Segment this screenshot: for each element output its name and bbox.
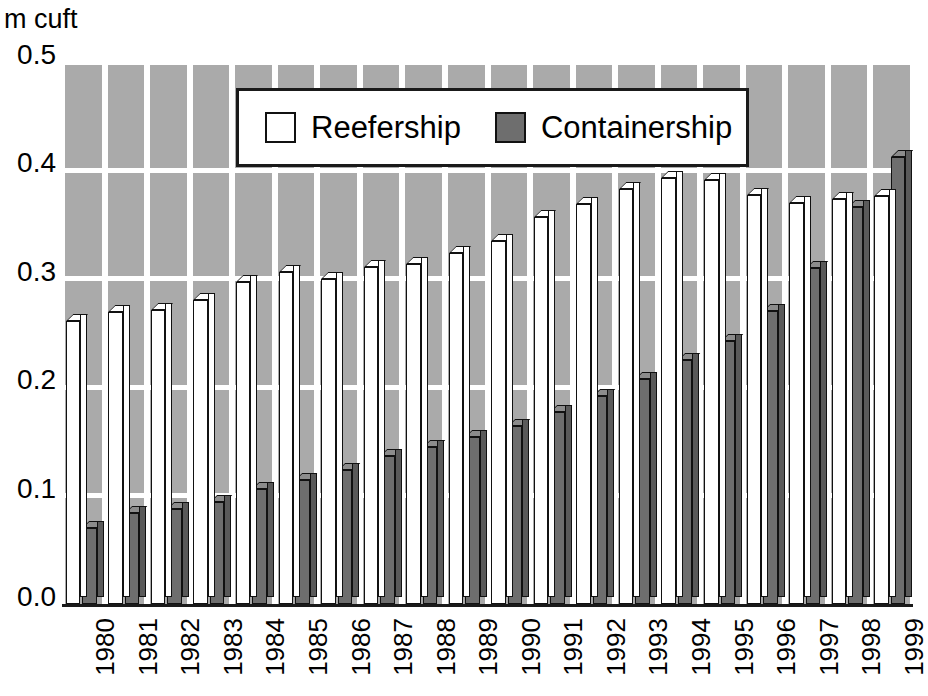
chart-legend: ReefershipContainership xyxy=(236,88,749,167)
bar-front-face xyxy=(151,310,166,604)
legend-entry[interactable]: Containership xyxy=(495,112,732,143)
bar-side-face xyxy=(421,257,428,597)
bar-reefership xyxy=(66,314,81,604)
bar-side-face xyxy=(139,506,146,597)
bar-side-face xyxy=(97,521,104,597)
bar-side-face xyxy=(650,372,657,597)
legend-entry[interactable]: Reefership xyxy=(265,112,461,143)
bar-reefership xyxy=(364,260,379,604)
x-axis-tick-label: 1999 xyxy=(901,618,927,676)
bar-reefership xyxy=(704,173,719,604)
x-axis-tick-label: 1993 xyxy=(645,618,671,676)
bar-front-face xyxy=(279,272,294,604)
legend-label: Containership xyxy=(541,112,732,143)
x-axis-tick-label: 1989 xyxy=(475,618,501,676)
x-axis-tick-label: 1996 xyxy=(773,618,799,676)
x-axis-tick-label: 1986 xyxy=(348,618,374,676)
bar-reefership xyxy=(491,234,506,604)
x-axis-tick-label: 1998 xyxy=(858,618,884,676)
y-axis-tick-label: 0.4 xyxy=(17,149,56,177)
bar-reefership xyxy=(151,303,166,604)
bar-side-face xyxy=(804,196,811,597)
x-axis-tick-label: 1994 xyxy=(688,618,714,676)
bar-front-face xyxy=(449,253,464,604)
bar-side-face xyxy=(761,188,768,597)
bar-side-face xyxy=(336,272,343,597)
bar-reefership xyxy=(661,171,676,604)
y-axis-tick-label: 0.5 xyxy=(17,41,56,69)
y-axis-tick-label: 0.2 xyxy=(17,366,56,394)
x-axis-tick-label: 1980 xyxy=(92,618,118,676)
x-axis-tick-label: 1987 xyxy=(390,618,416,676)
y-axis-unit-label: m cuft xyxy=(4,4,78,34)
y-axis: 0.00.10.20.30.40.5 xyxy=(0,55,62,615)
bar-reefership xyxy=(789,196,804,604)
bar-side-face xyxy=(480,430,487,597)
bar-side-face xyxy=(633,182,640,597)
bar-reefership xyxy=(279,265,294,604)
y-axis-tick-label: 0.1 xyxy=(17,475,56,503)
bar-front-face xyxy=(321,279,336,604)
bar-front-face xyxy=(619,189,634,604)
bar-side-face xyxy=(548,210,555,597)
y-axis-tick-label: 0.0 xyxy=(17,583,56,611)
y-axis-tick-label: 0.3 xyxy=(17,258,56,286)
bar-reefership xyxy=(747,188,762,604)
bar-front-face xyxy=(236,282,251,604)
x-axis-tick-label: 1997 xyxy=(816,618,842,676)
x-axis-tick-label: 1991 xyxy=(560,618,586,676)
bar-front-face xyxy=(661,178,676,604)
bar-side-face xyxy=(267,482,274,597)
bar-side-face xyxy=(310,473,317,597)
bar-reefership xyxy=(406,257,421,604)
bar-front-face xyxy=(704,180,719,604)
x-axis-tick-label: 1983 xyxy=(220,618,246,676)
x-axis-tick-label: 1988 xyxy=(433,618,459,676)
bar-side-face xyxy=(224,495,231,597)
bar-front-face xyxy=(747,195,762,604)
x-axis-tick-label: 1984 xyxy=(262,618,288,676)
x-axis-tick-label: 1981 xyxy=(135,618,161,676)
bar-side-face xyxy=(735,334,742,597)
gridline-vertical xyxy=(62,62,65,604)
x-axis-tick-label: 1992 xyxy=(603,618,629,676)
bar-side-face xyxy=(905,150,912,597)
bar-reefership xyxy=(832,192,847,604)
bar-front-face xyxy=(66,321,81,604)
legend-swatch-reefership xyxy=(265,112,296,143)
bar-reefership xyxy=(236,275,251,604)
bar-side-face xyxy=(250,275,257,597)
bar-reefership xyxy=(193,293,208,604)
bar-side-face xyxy=(719,173,726,597)
bar-front-face xyxy=(789,203,804,604)
bar-front-face xyxy=(832,199,847,604)
bar-side-face xyxy=(80,314,87,597)
bar-side-face xyxy=(182,502,189,597)
bar-front-face xyxy=(406,264,421,604)
legend-swatch-containership xyxy=(495,112,526,143)
x-axis-tick-label: 1995 xyxy=(731,618,757,676)
bar-side-face xyxy=(565,405,572,597)
bar-side-face xyxy=(522,419,529,597)
bar-side-face xyxy=(293,265,300,597)
bar-side-face xyxy=(437,440,444,597)
x-axis-line xyxy=(62,604,913,607)
x-axis-tick-label: 1985 xyxy=(305,618,331,676)
bar-side-face xyxy=(607,389,614,597)
bar-side-face xyxy=(165,303,172,597)
bar-side-face xyxy=(820,261,827,597)
x-axis-tick-label: 1982 xyxy=(177,618,203,676)
bar-reefership xyxy=(874,189,889,604)
bar-reefership xyxy=(619,182,634,604)
bar-front-face xyxy=(108,312,123,604)
bar-reefership xyxy=(321,272,336,604)
bar-side-face xyxy=(208,293,215,597)
bar-side-face xyxy=(352,463,359,597)
bar-side-face xyxy=(591,197,598,597)
bar-front-face xyxy=(491,241,506,604)
bar-side-face xyxy=(378,260,385,597)
bar-front-face xyxy=(874,196,889,604)
bar-reefership xyxy=(449,246,464,604)
bar-side-face xyxy=(395,449,402,598)
